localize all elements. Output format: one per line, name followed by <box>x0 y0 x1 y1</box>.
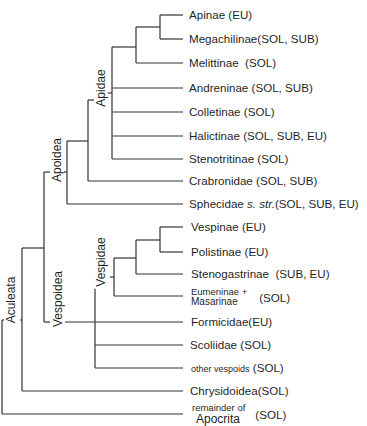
leaf-traits: (SOL) <box>244 105 275 118</box>
leaf-name: Vespinae <box>191 220 239 233</box>
leaf-stenotritinae: Stenotritinae (SOL) <box>189 153 288 165</box>
group-label-aculeata: Aculeata <box>4 275 18 326</box>
leaf-name-line2: Apocrita <box>192 413 245 426</box>
leaf-name: Megachilinae <box>189 32 257 45</box>
leaf-name: Chrysidoidea <box>190 384 258 397</box>
leaf-apinae: Apinae (EU) <box>189 9 252 21</box>
leaf-traits: (SOL) <box>245 56 276 69</box>
leaf-traits: (SOL) <box>258 384 289 397</box>
leaf-name: Crabronidae <box>189 174 253 187</box>
leaf-name: Stenogastrinae <box>191 267 269 280</box>
leaf-traits: (SUB, EU) <box>275 267 329 280</box>
leaf-traits: (SOL, SUB) <box>252 81 313 94</box>
leaf-polistinae: Polistinae (EU) <box>191 246 268 258</box>
leaf-name: other vespoids <box>191 364 250 374</box>
leaf-halictinae: Halictinae (SOL, SUB, EU) <box>189 130 327 142</box>
leaf-remainder-of-apocrita: remainder of Apocrita (SOL) <box>192 403 286 426</box>
group-label-apidae: Apidae <box>94 67 108 108</box>
leaf-vespinae: Vespinae (EU) <box>191 221 266 233</box>
leaf-traits: (SOL) <box>255 408 286 421</box>
leaf-name-qualifier: s. str. <box>247 197 275 210</box>
leaf-name: Apinae <box>189 8 225 21</box>
leaf-name-line2: Masarinae <box>191 297 247 308</box>
leaf-name: Melittinae <box>189 56 239 69</box>
group-label-vespoidea: Vespoidea <box>51 269 65 329</box>
leaf-stenogastrinae: Stenogastrinae (SUB, EU) <box>191 268 330 280</box>
leaf-name: Halictinae <box>189 129 240 142</box>
leaf-name: Sphecidae <box>189 197 244 210</box>
leaf-traits: (EU) <box>248 315 272 328</box>
group-label-apoidea: Apoidea <box>50 136 64 184</box>
leaf-traits: (SOL, SUB, EU) <box>275 197 359 210</box>
leaf-traits: (SOL, SUB) <box>257 32 318 45</box>
leaf-scoliidae: Scoliidae (SOL) <box>190 339 271 351</box>
leaf-name: Polistinae <box>191 245 241 258</box>
leaf-traits: (SOL, SUB) <box>256 174 317 187</box>
leaf-traits: (EU) <box>242 220 266 233</box>
leaf-sphecidae: Sphecidae s. str.(SOL, SUB, EU) <box>189 198 359 210</box>
leaf-traits: (SOL) <box>240 338 271 351</box>
leaf-andreninae: Andreninae (SOL, SUB) <box>189 82 313 94</box>
group-label-vespidae: Vespidae <box>94 235 108 288</box>
leaf-name: Formicidae <box>191 315 248 328</box>
leaf-colletinae: Colletinae (SOL) <box>189 106 275 118</box>
leaf-name: Colletinae <box>189 105 241 118</box>
leaf-name: Scoliidae <box>190 338 237 351</box>
leaf-traits: (SOL) <box>259 291 290 304</box>
leaf-eumeninae-masarinae: Eumeninae + Masarinae (SOL) <box>191 287 290 307</box>
leaf-other-vespoids: other vespoids (SOL) <box>191 362 284 374</box>
leaf-traits: (SOL, SUB, EU) <box>243 129 327 142</box>
leaf-chrysidoidea: Chrysidoidea(SOL) <box>190 385 289 397</box>
leaf-traits: (EU) <box>228 8 252 21</box>
leaf-traits: (EU) <box>245 245 269 258</box>
leaf-megachilinae: Megachilinae(SOL, SUB) <box>189 33 319 45</box>
leaf-formicidae: Formicidae(EU) <box>191 316 272 328</box>
leaf-traits: (SOL) <box>257 152 288 165</box>
leaf-name: Andreninae <box>189 81 248 94</box>
leaf-traits: (SOL) <box>253 361 284 374</box>
leaf-crabronidae: Crabronidae (SOL, SUB) <box>189 175 317 187</box>
leaf-melittinae: Melittinae (SOL) <box>189 57 276 69</box>
leaf-name: Stenotritinae <box>189 152 254 165</box>
